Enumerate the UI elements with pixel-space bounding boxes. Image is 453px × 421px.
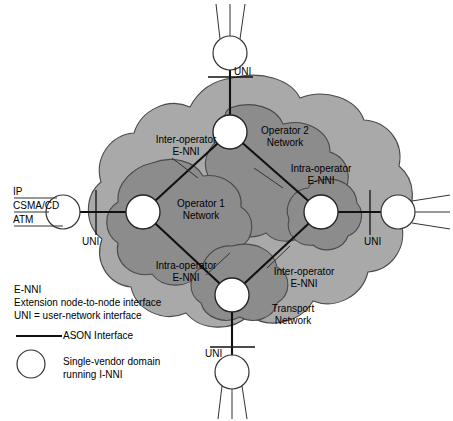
inter-operator-bottom-line2: E-NNI xyxy=(258,278,350,290)
uni-label-bottom: UNI xyxy=(205,348,222,360)
operator2-network-label-line2: Network xyxy=(249,137,321,149)
legend-symbols xyxy=(16,336,62,378)
access-stack-row-ip: IP xyxy=(13,186,22,197)
access-stack-row-csmacd: CSMA/CD xyxy=(13,200,59,211)
inter-operator-bottom-line1: Inter-operator xyxy=(258,266,350,278)
operator2-network-label-line1: Operator 2 xyxy=(249,125,321,137)
legend-ason-interface-label: ASON Interface xyxy=(63,330,133,343)
transport-network-label-line2: Network xyxy=(257,315,329,327)
cpe-right-fanout xyxy=(412,195,450,229)
cpe-circle-right xyxy=(381,195,415,229)
cpe-circle-bottom xyxy=(215,355,249,389)
legend-circle-symbol xyxy=(17,350,45,378)
inter-operator-top-line1: Inter-operator xyxy=(140,134,232,146)
intra-operator-right-line2: E-NNI xyxy=(275,175,367,187)
node-operator1 xyxy=(126,195,160,229)
cpe-top-fanout xyxy=(216,4,245,39)
legend-single-vendor-line1: Single-vendor domain xyxy=(63,356,160,369)
uni-label-right: UNI xyxy=(364,236,381,248)
transport-network-label-line1: Transport xyxy=(257,303,329,315)
figure-canvas: IP CSMA/CD ATM UNI UNI UNI UNI Operator … xyxy=(0,0,453,421)
legend-abbrev-line3: UNI = user-network interface xyxy=(14,309,142,322)
access-stack-row-atm: ATM xyxy=(13,214,33,225)
inter-operator-top-line2: E-NNI xyxy=(140,146,232,158)
uni-label-top: UNI xyxy=(234,66,251,78)
cpe-circle-top xyxy=(213,36,247,70)
intra-operator-bottom-line2: E-NNI xyxy=(140,272,232,284)
operator1-network-label-line2: Network xyxy=(165,210,237,222)
cpe-bottom-fanout xyxy=(218,386,247,419)
intra-operator-right-line1: Intra-operator xyxy=(275,163,367,175)
uni-label-left: UNI xyxy=(82,236,99,248)
intra-operator-bottom-line1: Intra-operator xyxy=(140,260,232,272)
legend-abbrev-line2: Extension node-to-node interface xyxy=(14,296,161,309)
node-right xyxy=(304,195,338,229)
operator1-network-label-line1: Operator 1 xyxy=(165,198,237,210)
legend-single-vendor-line2: running I-NNI xyxy=(63,369,122,382)
legend-abbrev-line1: E-NNI xyxy=(14,283,41,296)
